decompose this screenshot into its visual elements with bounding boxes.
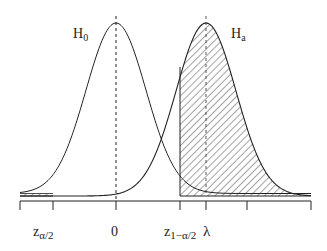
alternative-hypothesis-label: Ha xyxy=(231,26,246,43)
label-lambda: λ xyxy=(203,223,211,239)
label-z-alpha-half: zα/2 xyxy=(33,224,54,241)
null-hypothesis-label: H0 xyxy=(73,26,88,43)
alternative-density-curve xyxy=(20,23,311,196)
x-axis xyxy=(20,201,311,210)
null-density-curve xyxy=(20,23,311,194)
label-z-one-minus-alpha-half: z1−α/2 xyxy=(164,224,196,241)
right-rejection-region xyxy=(180,23,311,196)
label-zero: 0 xyxy=(111,224,118,239)
power-diagram: H0 Ha zα/2 0 z1−α/2 λ xyxy=(0,0,327,251)
